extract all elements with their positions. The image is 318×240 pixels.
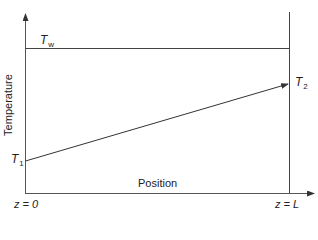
t1-subscript: 1 [19, 159, 23, 168]
fluid-temperature-line [26, 84, 289, 161]
y-axis-label: Temperature [2, 74, 14, 136]
t1-symbol: T [11, 152, 18, 166]
t2-subscript: 2 [303, 82, 307, 91]
tw-label: Tw [40, 33, 54, 49]
t2-label: T2 [295, 75, 308, 91]
tw-symbol: T [40, 33, 47, 47]
x-axis-label: Position [138, 177, 177, 189]
tw-subscript: w [48, 40, 54, 49]
t1-label: T1 [11, 152, 24, 168]
z-end-label: z = L [275, 198, 299, 210]
t2-symbol: T [295, 75, 302, 89]
z-start-label: z = 0 [14, 198, 38, 210]
